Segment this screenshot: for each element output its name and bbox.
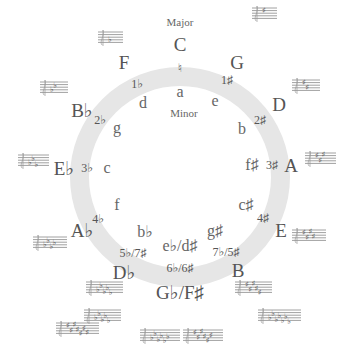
key-signature-staff-g: ♯ bbox=[252, 6, 277, 22]
svg-text:♯: ♯ bbox=[262, 6, 266, 15]
major-key-ab: A♭ bbox=[71, 221, 94, 240]
extra-key-signature-staff-4: ♭♭♭♭♭♭♭ bbox=[258, 308, 301, 326]
svg-text:♭: ♭ bbox=[34, 160, 38, 169]
major-key-d: D bbox=[272, 95, 286, 114]
minor-key-f: d bbox=[139, 95, 147, 111]
minor-key-a: f♯ bbox=[245, 157, 258, 173]
major-key-a: A bbox=[284, 156, 298, 175]
key-signature-staff-bb: ♭♭ bbox=[40, 80, 68, 96]
major-key-db: D♭ bbox=[113, 263, 136, 282]
svg-text:♭: ♭ bbox=[109, 288, 113, 297]
svg-text:♯: ♯ bbox=[85, 328, 89, 337]
major-key-bb: B♭ bbox=[71, 101, 93, 120]
minor-key-ab: f bbox=[114, 197, 119, 213]
minor-key-d: b bbox=[238, 121, 246, 137]
major-caption: Major bbox=[167, 17, 194, 28]
key-signature-staff-e: ♯♯♯♯ bbox=[292, 227, 326, 244]
key-signature-staff-a: ♯♯♯ bbox=[305, 150, 336, 167]
svg-text:♭: ♭ bbox=[166, 332, 170, 341]
minor-key-db: b♭ bbox=[137, 224, 153, 240]
major-key-e: E bbox=[275, 221, 287, 240]
signature-count-db: 5♭/7♯ bbox=[120, 247, 147, 259]
signature-count-ab: 4♭ bbox=[92, 213, 104, 225]
key-signature-staff-ab: ♭♭♭♭ bbox=[33, 235, 67, 251]
signature-count-gb: 6♭/6♯ bbox=[167, 262, 194, 274]
signature-count-a: 3♯ bbox=[266, 159, 278, 171]
signature-count-e: 4♯ bbox=[257, 212, 269, 224]
signature-count-b: 7♭/5♯ bbox=[213, 246, 240, 258]
svg-text:♭: ♭ bbox=[287, 317, 291, 326]
svg-text:♯: ♯ bbox=[312, 232, 316, 241]
key-signature-staff-eb: ♭♭♭ bbox=[18, 153, 49, 169]
major-key-gb: G♭/F♯ bbox=[156, 283, 204, 302]
minor-key-eb: c bbox=[103, 160, 110, 176]
minor-caption: Minor bbox=[170, 108, 198, 119]
svg-text:♯: ♯ bbox=[209, 331, 213, 340]
signature-count-f: 1♭ bbox=[131, 78, 143, 90]
minor-key-c: a bbox=[176, 84, 183, 100]
svg-text:♯: ♯ bbox=[258, 288, 262, 297]
key-signature-staff-b: ♯♯♯♯♯ bbox=[235, 279, 272, 297]
svg-text:♭: ♭ bbox=[53, 238, 57, 247]
extra-key-signature-staff-3: ♯♯♯♯♯♯ bbox=[183, 327, 223, 345]
svg-text:♯: ♯ bbox=[321, 150, 325, 159]
extra-key-signature-staff-2: ♭♭♭♭♭♭ bbox=[140, 328, 180, 345]
key-signature-staff-d: ♯♯ bbox=[292, 78, 320, 94]
major-key-eb: E♭ bbox=[54, 159, 75, 178]
minor-key-bb: g bbox=[113, 120, 121, 136]
signature-count-bb: 2♭ bbox=[94, 114, 106, 126]
minor-key-g: e bbox=[211, 93, 218, 109]
svg-text:♭: ♭ bbox=[108, 35, 112, 44]
major-key-c: C bbox=[174, 35, 187, 54]
signature-count-g: 1♯ bbox=[221, 74, 233, 86]
minor-key-b: g♯ bbox=[207, 223, 223, 239]
signature-count-d: 2♯ bbox=[254, 114, 266, 126]
key-signature-staff-db: ♭♭♭♭♭ bbox=[86, 280, 123, 297]
major-key-g: G bbox=[230, 53, 244, 72]
minor-key-gb: e♭/d♯ bbox=[162, 238, 197, 254]
svg-text:♭: ♭ bbox=[107, 316, 111, 325]
major-key-f: F bbox=[119, 53, 130, 72]
svg-text:♭: ♭ bbox=[53, 81, 57, 90]
key-signature-staff-f: ♭ bbox=[98, 30, 123, 46]
signature-count-c: ♮ bbox=[178, 62, 182, 74]
svg-text:♯: ♯ bbox=[305, 83, 309, 92]
signature-count-eb: 3♭ bbox=[81, 162, 93, 174]
circle-of-fifths-diagram: ♯♯♯♯♯♯♯♯♯♯♯♯♯♯♯♭♭♭♭♭♭♭♭♭♭♭♭♭♭♭♭♭♭♭♭♯♯♯♯♯… bbox=[0, 0, 349, 352]
minor-key-e: c♯ bbox=[238, 197, 253, 213]
extra-key-signature-staff-0: ♭♭♭♭♭ bbox=[84, 308, 121, 325]
extra-key-signature-staff-1: ♯♯♯♯♯♯♯ bbox=[56, 320, 99, 338]
major-key-b: B bbox=[232, 261, 245, 280]
